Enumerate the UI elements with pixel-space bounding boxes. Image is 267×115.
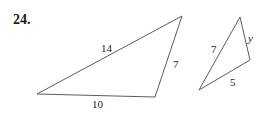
large-triangle-label-bottom: 10 [92,98,104,110]
large-triangle: 14 7 10 [37,16,182,110]
large-triangle-side-10 [37,94,155,97]
small-triangle-label-bottom: 5 [230,76,236,88]
triangle-figures: 14 7 10 7 y 5 [0,0,267,115]
large-triangle-label-top: 14 [101,42,113,54]
small-triangle-label-left: 7 [211,43,217,55]
large-triangle-label-right: 7 [173,58,179,70]
small-triangle-side-5 [199,60,250,90]
small-triangle-label-right: y [247,32,253,44]
small-triangle: 7 y 5 [199,17,253,90]
